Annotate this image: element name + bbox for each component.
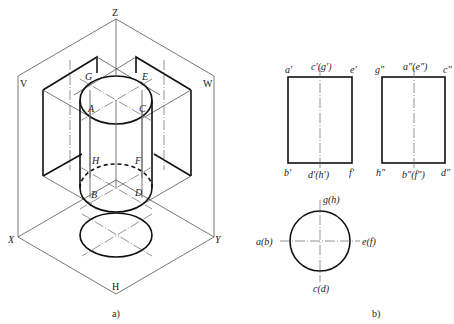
v-box-bottom-edge [43,154,82,176]
front-label-b: b′ [284,167,292,178]
front-label-dh: d′(h′) [308,169,330,181]
point-e-label: E [141,71,148,82]
side-view-rect [382,77,445,163]
front-label-a: a′ [285,64,293,75]
h-projection-ellipse [80,213,152,257]
side-label-bf-text: b″(f″) [402,169,425,181]
side-label-h: h″ [376,167,386,178]
side-label-c: c″ [443,64,452,75]
point-b-label: B [91,189,97,200]
front-label-e: e′ [350,64,357,75]
z-axis-label: Z [112,7,118,18]
side-label-ae: a″(e″) [403,61,428,73]
figure-b-caption: b) [372,308,380,320]
point-g-label: G [85,71,92,82]
point-a-label: A [87,103,95,114]
x-axis-label: X [7,234,15,245]
side-label-g: g″ [375,64,385,75]
h-plane-label: H [112,281,119,292]
top-label-ab: a(b) [256,236,273,248]
point-h-label: H [91,155,100,166]
point-f-label: F [134,155,142,166]
front-label-f: f′ [349,167,355,178]
top-label-cd: c(d) [313,283,330,295]
y-axis-label: Y [215,234,222,245]
front-label-cg: c′(g′) [311,61,332,73]
point-d-label: D [134,187,143,198]
y-axis-line [116,180,214,237]
side-label-d: d″ [441,167,451,178]
figure-a-caption: a) [112,308,120,320]
w-plane-label: W [203,78,213,89]
v-plane-label: V [20,78,28,89]
projection-diagram: Z V W X Y H G E A C H F B D a) a′ c′(g′)… [0,0,454,324]
top-label-ef: e(f) [362,236,377,248]
w-box-bottom-edge [154,154,191,176]
top-label-gh: g(h) [323,194,340,206]
x-axis-line [18,180,116,237]
point-c-label: C [139,103,146,114]
orthographic-views: a′ c′(g′) e′ b′ d′(h′) f′ g″ a″(e″) c″ h… [256,61,452,320]
isometric-view: Z V W X Y H G E A C H F B D a) [7,7,222,320]
v-box-inner-top [43,90,92,118]
